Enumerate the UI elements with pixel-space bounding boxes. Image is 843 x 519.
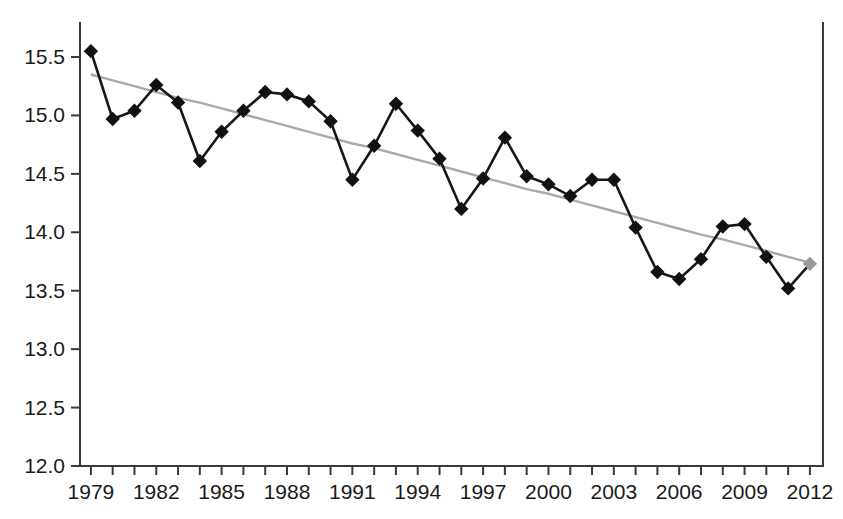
data-point-marker [541,177,555,191]
x-tick-label: 1985 [198,480,245,503]
data-point-marker [280,87,294,101]
y-axis-tick-labels: 12.012.513.013.514.014.515.015.5 [24,45,65,477]
x-tick-label: 1997 [460,480,507,503]
data-point-marker [105,112,119,126]
y-tick-label: 13.5 [24,279,65,302]
data-point-marker [737,217,751,231]
y-tick-label: 14.0 [24,220,65,243]
x-tick-label: 2009 [721,480,768,503]
x-tick-label: 2000 [525,480,572,503]
y-tick-label: 15.0 [24,103,65,126]
x-tick-label: 1991 [329,480,376,503]
data-point-marker [345,173,359,187]
x-tick-label: 1988 [264,480,311,503]
x-axis-tick-labels: 1979198219851988199119941997200020032006… [68,480,834,503]
y-tick-label: 14.5 [24,162,65,185]
chart-figure: 12.012.513.013.514.014.515.015.5 1979198… [0,0,843,519]
chart-canvas: 12.012.513.013.514.014.515.015.5 1979198… [0,0,843,519]
x-tick-label: 1979 [68,480,115,503]
trend-line [91,75,810,263]
data-point-marker [367,139,381,153]
data-point-marker [650,265,664,279]
y-tick-label: 12.0 [24,454,65,477]
x-axis-ticks [91,466,810,475]
x-tick-label: 2012 [787,480,834,503]
y-tick-label: 13.0 [24,337,65,360]
data-point-marker [498,130,512,144]
data-point-marker [84,44,98,58]
y-tick-label: 12.5 [24,396,65,419]
data-point-marker [519,169,533,183]
x-tick-label: 1982 [133,480,180,503]
x-tick-label: 1994 [394,480,441,503]
data-point-marker [716,219,730,233]
data-point-marker [607,173,621,187]
x-tick-label: 2006 [656,480,703,503]
trend-line-series [91,75,810,263]
data-point-marker [628,220,642,234]
y-axis-ticks [71,57,80,466]
y-tick-label: 15.5 [24,45,65,68]
x-tick-label: 2003 [590,480,637,503]
